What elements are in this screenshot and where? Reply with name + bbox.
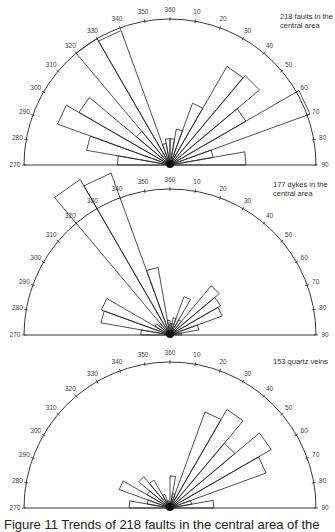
tick-label: 90 (321, 331, 329, 338)
panel-label-quartz-veins: 153 quartz veins (273, 357, 335, 366)
label-line: 218 faults in the (280, 12, 335, 21)
tick-label: 290 (19, 278, 30, 285)
tick-label: 90 (321, 504, 329, 511)
tick-label: 50 (285, 231, 293, 238)
tick-label: 360 (165, 349, 176, 356)
tick-label: 360 (165, 6, 176, 13)
tick-label: 330 (87, 370, 98, 377)
tick-mark (312, 482, 316, 483)
tick-label: 270 (10, 331, 21, 338)
tick-label: 40 (266, 212, 274, 219)
tick-label: 20 (219, 185, 227, 192)
tick-label: 80 (319, 477, 327, 484)
tick-label: 20 (219, 358, 227, 365)
tick-label: 20 (219, 15, 227, 22)
tick-label: 80 (319, 304, 327, 311)
center-hub (166, 503, 174, 511)
label-line: central area (280, 21, 335, 30)
tick-label: 300 (30, 254, 41, 261)
tick-label: 350 (138, 178, 149, 185)
tick-label: 310 (46, 61, 57, 68)
tick-mark (195, 362, 196, 366)
tick-label: 70 (312, 108, 320, 115)
tick-label: 30 (244, 27, 252, 34)
tick-label: 50 (285, 404, 293, 411)
tick-label: 300 (30, 427, 41, 434)
tick-label: 40 (266, 42, 274, 49)
tick-label: 340 (112, 358, 123, 365)
tick-label: 30 (244, 370, 252, 377)
tick-label: 90 (321, 161, 329, 168)
tick-label: 280 (12, 304, 23, 311)
tick-label: 10 (193, 8, 201, 15)
tick-label: 350 (138, 351, 149, 358)
tick-mark (312, 139, 316, 140)
label-line: central area (273, 189, 335, 198)
tick-label: 40 (266, 385, 274, 392)
label-line: 153 quartz veins (273, 357, 335, 366)
tick-label: 10 (193, 178, 201, 185)
tick-label: 300 (30, 84, 41, 91)
tick-label: 280 (12, 477, 23, 484)
tick-label: 290 (19, 108, 30, 115)
tick-label: 30 (244, 197, 252, 204)
tick-label: 320 (65, 385, 76, 392)
panel-label-dykes: 177 dykes in the central area (273, 180, 335, 198)
tick-mark (195, 189, 196, 193)
tick-label: 60 (301, 254, 309, 261)
tick-label: 340 (112, 15, 123, 22)
tick-label: 270 (10, 504, 21, 511)
figure-caption: Figure 11 Trends of 218 faults in the ce… (4, 517, 320, 532)
tick-label: 330 (87, 27, 98, 34)
tick-mark (24, 309, 28, 310)
tick-label: 60 (301, 84, 309, 91)
tick-label: 80 (319, 134, 327, 141)
tick-mark (24, 139, 28, 140)
tick-label: 310 (46, 231, 57, 238)
tick-label: 50 (285, 61, 293, 68)
tick-label: 10 (193, 351, 201, 358)
tick-label: 270 (10, 161, 21, 168)
center-hub (166, 330, 174, 338)
panel-label-faults: 218 faults in the central area (280, 12, 335, 30)
center-hub (166, 160, 174, 168)
tick-mark (144, 189, 145, 193)
tick-label: 280 (12, 134, 23, 141)
tick-label: 290 (19, 451, 30, 458)
tick-mark (24, 482, 28, 483)
tick-mark (312, 309, 316, 310)
tick-label: 360 (165, 176, 176, 183)
tick-label: 310 (46, 404, 57, 411)
tick-mark (144, 19, 145, 23)
tick-label: 70 (312, 278, 320, 285)
tick-mark (195, 19, 196, 23)
tick-mark (144, 362, 145, 366)
rose-diagram-figure: 2702802903003103203303403503601020304050… (0, 0, 335, 532)
tick-label: 350 (138, 8, 149, 15)
tick-label: 70 (312, 451, 320, 458)
label-line: 177 dykes in the (273, 180, 335, 189)
tick-label: 60 (301, 427, 309, 434)
tick-label: 320 (65, 42, 76, 49)
